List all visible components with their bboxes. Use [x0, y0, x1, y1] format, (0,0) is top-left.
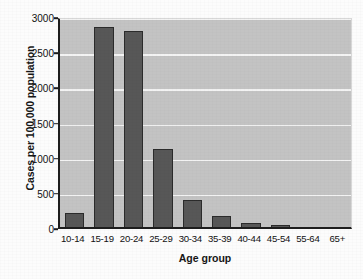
bar — [124, 31, 143, 227]
x-tick-label: 55-64 — [296, 233, 319, 244]
bar-series — [60, 19, 351, 227]
y-tick-label: 500 — [14, 188, 54, 199]
y-tick-label: 3000 — [14, 13, 54, 24]
chart-figure: Cases per 100,000 population 05001000150… — [0, 0, 363, 279]
y-tick-label: 2500 — [14, 48, 54, 59]
x-tick-label: 10-14 — [61, 233, 84, 244]
x-tick-label: 20-24 — [120, 233, 143, 244]
y-tick-label: 1000 — [14, 153, 54, 164]
bar — [94, 27, 113, 227]
bar — [65, 213, 84, 227]
bar — [241, 223, 260, 227]
bar — [183, 200, 202, 227]
plot-area — [58, 18, 352, 229]
y-tick-label: 0 — [14, 224, 54, 235]
x-axis-title: Age group — [58, 252, 352, 264]
bar — [153, 149, 172, 227]
x-tick-label: 45-54 — [267, 233, 290, 244]
gridline — [60, 230, 351, 231]
bar — [212, 216, 231, 227]
x-tick-label: 15-19 — [90, 233, 113, 244]
x-tick-label: 35-39 — [208, 233, 231, 244]
y-tick-label: 1500 — [14, 118, 54, 129]
x-tick-label: 65+ — [330, 233, 346, 244]
y-tick-label: 2000 — [14, 83, 54, 94]
x-tick-label: 25-29 — [149, 233, 172, 244]
x-tick-label: 30-34 — [179, 233, 202, 244]
bar — [271, 225, 290, 227]
x-tick-label: 40-44 — [237, 233, 260, 244]
